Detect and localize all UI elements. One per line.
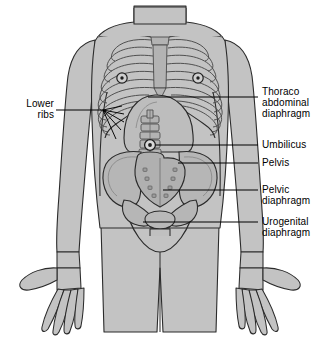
nipple-right [193, 73, 203, 83]
right-palm [239, 268, 263, 290]
right-thumb [263, 268, 300, 290]
head-neck [134, 6, 186, 24]
label-pelvic-diaphragm: Pelvic diaphragm [262, 184, 320, 206]
sternum [151, 37, 169, 96]
anatomy-illustration [0, 0, 320, 338]
label-thoraco-abdominal-diaphragm: Thoraco abdominal diaphragm [262, 86, 320, 120]
left-wrist [57, 252, 80, 268]
left-palm [57, 268, 81, 290]
anatomical-figure: Lower ribs Thoraco abdominal diaphragm U… [0, 0, 320, 338]
umbilicus-marker [145, 140, 156, 151]
left-thumb [20, 268, 57, 290]
nipple-left [117, 73, 127, 83]
right-arm [225, 40, 263, 252]
left-arm [57, 40, 95, 252]
right-wrist [240, 252, 263, 268]
label-lower-ribs: Lower ribs [4, 98, 54, 120]
label-urogenital-diaphragm: Urogenital diaphragm [262, 216, 320, 238]
label-umbilicus: Umbilicus [262, 139, 320, 150]
urogenital-diaphragm [145, 211, 175, 229]
right-hand [236, 252, 300, 335]
left-hand [20, 252, 84, 335]
label-pelvis: Pelvis [262, 157, 320, 168]
